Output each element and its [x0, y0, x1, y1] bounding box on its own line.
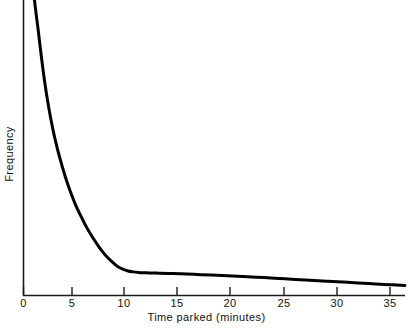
x-tick-label-15: 15: [165, 297, 189, 309]
plot-area: [0, 0, 413, 329]
frequency-curve: [34, 0, 405, 285]
x-axis-ticks: [24, 287, 391, 296]
x-tick-label-35: 35: [378, 297, 402, 309]
x-tick-label-25: 25: [272, 297, 296, 309]
x-tick-label-20: 20: [218, 297, 242, 309]
x-tick-label-5: 5: [60, 297, 84, 309]
y-axis-title: Frequency: [3, 118, 15, 190]
chart-figure: 0 5 10 15 20 25 30 35 Time parked (minut…: [0, 0, 413, 329]
x-axis-title: Time parked (minutes): [0, 311, 413, 323]
x-tick-label-10: 10: [112, 297, 136, 309]
x-tick-label-0: 0: [12, 297, 36, 309]
x-tick-label-30: 30: [325, 297, 349, 309]
